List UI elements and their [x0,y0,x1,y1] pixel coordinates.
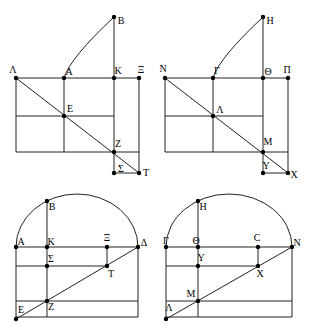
bottom-right-point-C-dot [256,245,260,249]
bottom-left-point-E-dot [14,317,18,321]
bottom-right-point-M-dot [196,299,200,303]
bottom-left-point-Z-label: Z [48,301,54,312]
bottom-right-point-Y-label: Y [197,252,204,263]
bottom-left-point-Ξ-dot [105,245,109,249]
bottom-left-point-Δ-label: Δ [141,237,148,248]
top-right-point-Λ-dot [211,114,215,118]
bottom-right-point-X-label: X [256,268,264,279]
bottom-left-point-B-label: B [49,201,56,212]
top-left-point-E-dot [62,114,66,118]
bottom-left-point-E-label: E [18,304,24,315]
bottom-right-point-N-label: N [293,237,300,248]
top-right-point-M-dot [261,150,265,154]
top-left-point-Z-label: Z [115,138,121,149]
top-right-point-Π-dot [286,76,290,80]
top-right-point-H-dot [261,15,265,19]
figure-top-right: HNΓΘΠΛMYX [159,15,298,180]
bottom-left-arch-arc [16,194,138,247]
bottom-left-point-Δ-dot [136,245,140,249]
bottom-left-point-Σ-label: Σ [48,253,54,264]
top-left-line [16,78,139,173]
bottom-right-line [166,247,292,319]
top-left-point-B-label: B [118,15,125,26]
top-right-point-H-label: H [266,15,273,26]
bottom-right-point-Λ-label: Λ [165,302,173,313]
top-right-bow-curve [213,17,263,78]
top-left-point-Z-dot [112,150,116,154]
bottom-right-point-Y-dot [196,264,200,268]
bottom-right-point-H-label: H [199,201,206,212]
top-right-point-Γ-dot [211,76,215,80]
top-right-point-Θ-label: Θ [264,66,271,77]
top-right-point-Λ-label: Λ [216,104,224,115]
top-left-point-T-dot [137,171,141,175]
bottom-left-point-K-label: K [47,236,55,247]
bottom-right-point-C-label: C [254,232,261,243]
top-right-point-Π-label: Π [283,64,290,75]
bottom-right-arch-arc [166,194,292,247]
figure-bottom-right: HΓΘCNYXMΛ [163,194,301,321]
diagram-canvas: BΛAKΞEZΣTHNΓΘΠΛMYXBAKΞΔΣTZEHΓΘCNYXMΛ [0,0,312,334]
top-left-point-T-label: T [143,167,149,178]
top-left-point-Λ-label: Λ [9,64,17,75]
top-right-point-X-label: X [290,169,298,180]
top-right-point-Y-label: Y [262,160,269,171]
bottom-left-line [16,247,138,319]
top-left-point-Σ-dot [112,171,116,175]
bottom-left-point-A-label: A [17,236,25,247]
top-left-point-K-dot [112,76,116,80]
bottom-right-point-Λ-dot [164,317,168,321]
bottom-right-point-Γ-label: Γ [163,235,169,246]
top-right-point-Γ-label: Γ [214,65,220,76]
top-right-point-Y-dot [261,171,265,175]
top-left-point-A-label: A [65,66,73,77]
bottom-left-point-Σ-dot [45,264,49,268]
bottom-right-point-M-label: M [187,288,196,299]
top-left-point-E-label: E [67,103,73,114]
top-left-point-Λ-dot [14,76,18,80]
top-right-point-M-label: M [264,136,273,147]
top-right-point-N-dot [163,76,167,80]
top-left-point-Ξ-label: Ξ [138,64,144,75]
geometric-diagram: BΛAKΞEZΣTHNΓΘΠΛMYXBAKΞΔΣTZEHΓΘCNYXMΛ [0,0,312,334]
figure-bottom-left: BAKΞΔΣTZE [14,194,148,321]
figure-top-left: BΛAKΞEZΣT [9,15,149,178]
bottom-left-point-Ξ-label: Ξ [104,232,110,243]
top-left-point-K-label: K [114,65,122,76]
bottom-right-point-Θ-label: Θ [192,235,199,246]
top-right-point-N-label: N [159,63,166,74]
top-left-point-Σ-label: Σ [118,163,124,174]
top-left-point-B-dot [112,15,116,19]
bottom-left-point-T-label: T [108,268,114,279]
top-left-point-Ξ-dot [137,76,141,80]
